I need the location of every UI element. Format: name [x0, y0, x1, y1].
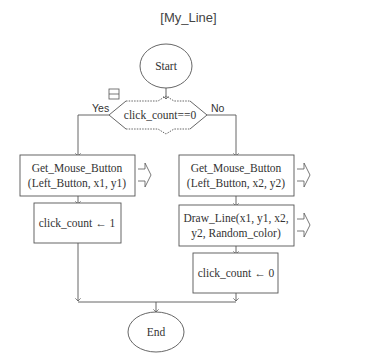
left-assign-node[interactable]: click_count ← 1: [34, 203, 121, 243]
draw-line-line1: Draw_Line(x1, y1, x2,: [183, 212, 288, 225]
right-get-line1: Get_Mouse_Button: [191, 162, 282, 174]
left-get-line1: Get_Mouse_Button: [32, 162, 123, 174]
start-label: Start: [155, 60, 178, 72]
left-get-output-arrow-icon: [138, 163, 151, 187]
right-get-line2: (Left_Button, x2, y2): [187, 177, 286, 190]
right-assign-label: click_count ← 0: [198, 267, 275, 279]
draw-line-output-arrow-icon: [297, 213, 310, 237]
draw-line-node[interactable]: Draw_Line(x1, y1, x2, y2, Random_color): [179, 205, 294, 246]
right-get-output-arrow-icon: [297, 163, 310, 187]
draw-line-line2: y2, Random_color): [191, 227, 281, 240]
left-get-line2: (Left_Button, x1, y1): [28, 177, 127, 190]
decision-label: click_count==0: [124, 109, 197, 121]
yes-label: Yes: [92, 102, 109, 114]
collapse-toggle-icon[interactable]: [109, 89, 119, 99]
left-assign-label: click_count ← 1: [39, 217, 116, 229]
right-assign-node[interactable]: click_count ← 0: [193, 253, 278, 293]
decision-node[interactable]: click_count==0: [109, 89, 207, 134]
start-node[interactable]: Start: [140, 44, 192, 88]
flowchart: Start click_count==0 Yes No Get_Mouse_Bu…: [0, 0, 377, 359]
end-node[interactable]: End: [128, 312, 184, 352]
left-get-mouse-node[interactable]: Get_Mouse_Button (Left_Button, x1, y1): [20, 155, 135, 196]
no-label: No: [211, 102, 225, 114]
end-label: End: [147, 326, 166, 338]
right-get-mouse-node[interactable]: Get_Mouse_Button (Left_Button, x2, y2): [179, 155, 294, 196]
